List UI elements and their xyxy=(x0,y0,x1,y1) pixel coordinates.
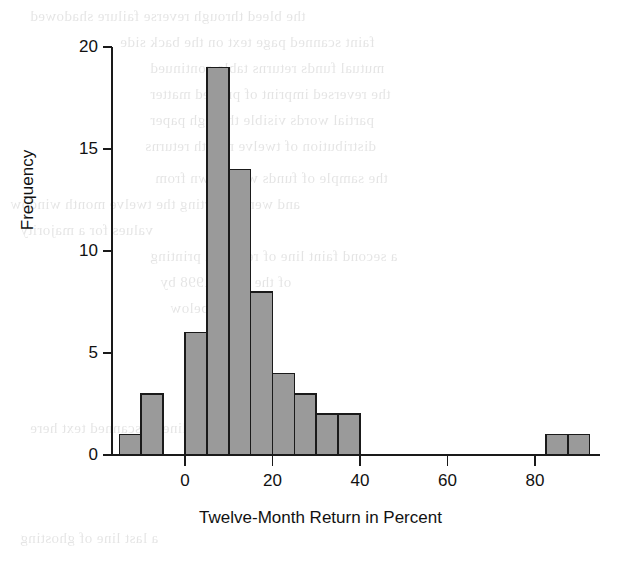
histogram-bar xyxy=(207,67,229,455)
y-tick-label: 0 xyxy=(60,445,98,465)
histogram-bar xyxy=(316,414,338,455)
histogram-plot xyxy=(0,0,641,562)
histogram-bar xyxy=(141,394,163,455)
x-axis-title: Twelve-Month Return in Percent xyxy=(0,508,641,528)
histogram-bar xyxy=(294,394,316,455)
axis-ticks xyxy=(103,47,535,466)
histogram-bar xyxy=(338,414,360,455)
x-tick-label: 80 xyxy=(526,471,545,491)
x-tick-label: 40 xyxy=(351,471,370,491)
x-tick-label: 60 xyxy=(438,471,457,491)
histogram-bar xyxy=(273,373,295,455)
x-tick-label: 20 xyxy=(263,471,282,491)
histogram-bar xyxy=(568,435,590,455)
histogram-bar xyxy=(119,435,141,455)
histogram-bar xyxy=(546,435,568,455)
histogram-bar xyxy=(185,333,207,455)
y-axis-title: Frequency xyxy=(18,110,38,270)
y-tick-label: 20 xyxy=(60,37,98,57)
histogram-bars xyxy=(119,67,589,455)
histogram-figure: 05101520020406080 Frequency Twelve-Month… xyxy=(0,0,641,562)
y-tick-label: 5 xyxy=(60,343,98,363)
y-tick-label: 10 xyxy=(60,241,98,261)
histogram-bar xyxy=(251,292,273,455)
y-tick-label: 15 xyxy=(60,139,98,159)
histogram-bar xyxy=(229,169,251,455)
x-tick-label: 0 xyxy=(180,471,189,491)
